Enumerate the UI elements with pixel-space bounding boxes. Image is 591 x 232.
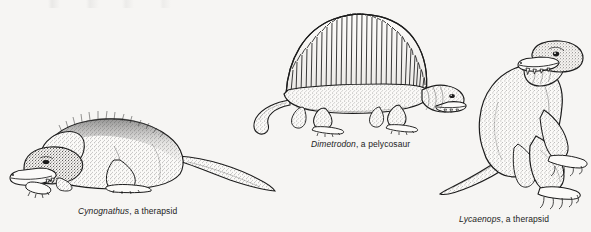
dimetrodon-drawing	[252, 8, 467, 136]
genus-name-cynognathus: Cynognathus	[78, 206, 129, 216]
specimen-illustration-cynognathus	[2, 106, 292, 198]
caption-description-cynognathus: , a therapsid	[129, 206, 177, 216]
figure-plate: Cynognathus, a therapsid	[0, 0, 591, 232]
cynognathus-drawing	[2, 106, 292, 198]
caption-dimetrodon: Dimetrodon, a pelycosaur	[311, 139, 410, 150]
caption-description-dimetrodon: , a pelycosaur	[356, 139, 410, 149]
genus-name-dimetrodon: Dimetrodon	[311, 139, 356, 149]
caption-cynognathus: Cynognathus, a therapsid	[78, 206, 177, 217]
scan-noise-artifact	[0, 0, 591, 8]
lycaenops-drawing	[440, 40, 591, 212]
caption-lycaenops: Lycaenops, a therapsid	[459, 214, 549, 225]
specimen-illustration-dimetrodon	[252, 8, 467, 136]
genus-name-lycaenops: Lycaenops	[459, 214, 501, 224]
caption-description-lycaenops: , a therapsid	[501, 214, 549, 224]
specimen-illustration-lycaenops	[440, 40, 591, 212]
